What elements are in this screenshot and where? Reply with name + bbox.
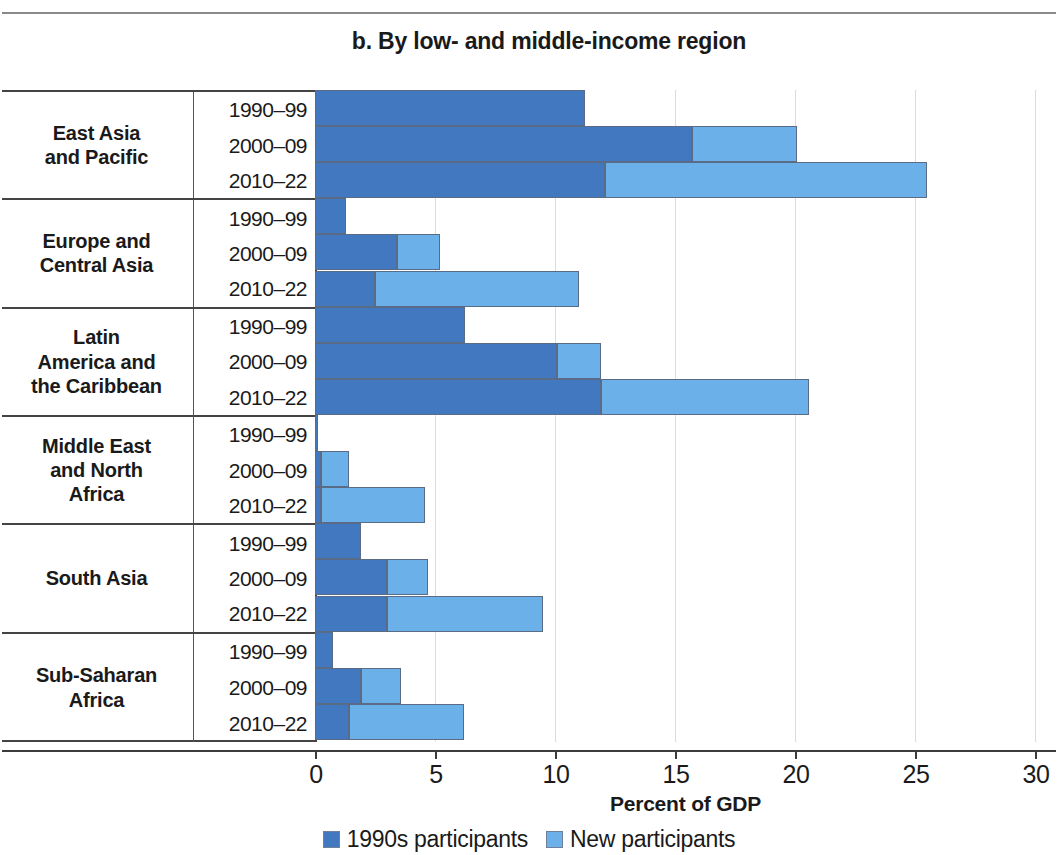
gridline [1035, 90, 1036, 742]
period-label: 2010–22 [194, 278, 315, 299]
region-group: Europe andCentral Asia1990–992000–092010… [2, 200, 315, 308]
bar-segment-1990s-participants[interactable] [315, 271, 375, 307]
x-axis-tick-label: 5 [406, 760, 466, 789]
bar-segment-1990s-participants[interactable] [315, 379, 601, 415]
period-label: 1990–99 [194, 424, 315, 445]
chart-plot-region: East Asiaand Pacific1990–992000–092010–2… [0, 90, 1058, 750]
bar-row[interactable] [315, 234, 440, 270]
period-label: 1990–99 [194, 533, 315, 554]
period-label: 2000–09 [194, 243, 315, 264]
x-axis-tick-label: 15 [646, 760, 706, 789]
bar-segment-1990s-participants[interactable] [315, 668, 361, 704]
x-axis-line [2, 750, 1056, 752]
chart-legend: 1990s participantsNew participants [0, 826, 1058, 853]
x-axis-title: Percent of GDP [315, 792, 1056, 816]
region-label-line: Africa [2, 482, 191, 506]
period-label-column: 1990–992000–092010–22 [193, 92, 315, 198]
bar-segment-1990s-participants[interactable] [315, 307, 465, 343]
bar-row[interactable] [315, 126, 797, 162]
region-label-table: East Asiaand Pacific1990–992000–092010–2… [2, 90, 315, 742]
bar-segment-1990s-participants[interactable] [315, 234, 397, 270]
region-label-line: Latin [2, 325, 191, 349]
bar-segment-new-participants[interactable] [375, 271, 579, 307]
period-label: 2010–22 [194, 603, 315, 624]
region-label-line: the Caribbean [2, 374, 191, 398]
region-label: Europe andCentral Asia [2, 229, 195, 278]
region-label-line: South Asia [2, 566, 191, 590]
bar-segment-new-participants[interactable] [692, 126, 798, 162]
region-label-line: Europe and [2, 229, 191, 253]
bar-row[interactable] [315, 162, 927, 198]
bar-row[interactable] [315, 487, 425, 523]
region-label-line: East Asia [2, 121, 191, 145]
bar-row[interactable] [315, 451, 349, 487]
region-group: LatinAmerica andthe Caribbean1990–992000… [2, 309, 315, 417]
bar-segment-1990s-participants[interactable] [315, 415, 318, 451]
period-label: 2000–09 [194, 568, 315, 589]
bar-segment-1990s-participants[interactable] [315, 343, 557, 379]
legend-swatch-icon [323, 831, 340, 848]
bar-segment-new-participants[interactable] [361, 668, 402, 704]
bar-row[interactable] [315, 90, 585, 126]
period-label: 2000–09 [194, 677, 315, 698]
period-label-column: 1990–992000–092010–22 [193, 200, 315, 306]
bar-row[interactable] [315, 704, 464, 740]
bar-row[interactable] [315, 379, 809, 415]
legend-item[interactable]: New participants [546, 826, 735, 853]
legend-item[interactable]: 1990s participants [323, 826, 528, 853]
bar-segment-1990s-participants[interactable] [315, 523, 361, 559]
bar-segment-1990s-participants[interactable] [315, 90, 585, 126]
x-axis-tick [435, 750, 437, 759]
x-axis-tick-label: 0 [286, 760, 346, 789]
region-label: Sub-SaharanAfrica [2, 663, 195, 712]
bar-segment-1990s-participants[interactable] [315, 162, 605, 198]
region-group: South Asia1990–992000–092010–22 [2, 525, 315, 633]
bar-segment-1990s-participants[interactable] [315, 559, 387, 595]
bar-row[interactable] [315, 596, 543, 632]
region-label: East Asiaand Pacific [2, 121, 195, 170]
region-group: Sub-SaharanAfrica1990–992000–092010–22 [2, 634, 315, 742]
bar-segment-new-participants[interactable] [387, 596, 543, 632]
legend-label: 1990s participants [347, 826, 528, 853]
bar-segment-1990s-participants[interactable] [315, 632, 333, 668]
period-label: 1990–99 [194, 208, 315, 229]
period-label-column: 1990–992000–092010–22 [193, 525, 315, 631]
bar-segment-new-participants[interactable] [321, 487, 425, 523]
bar-segment-new-participants[interactable] [321, 451, 349, 487]
bar-row[interactable] [315, 307, 465, 343]
x-axis-tick [795, 750, 797, 759]
bar-row[interactable] [315, 523, 361, 559]
bar-segment-new-participants[interactable] [397, 234, 440, 270]
region-label-line: Central Asia [2, 253, 191, 277]
bar-row[interactable] [315, 415, 318, 451]
bar-segment-new-participants[interactable] [557, 343, 600, 379]
period-label: 1990–99 [194, 641, 315, 662]
x-axis-tick [1035, 750, 1037, 759]
bar-row[interactable] [315, 668, 401, 704]
bar-segment-new-participants[interactable] [387, 559, 428, 595]
bar-row[interactable] [315, 632, 333, 668]
period-label-column: 1990–992000–092010–22 [193, 309, 315, 415]
bar-segment-new-participants[interactable] [605, 162, 927, 198]
bar-row[interactable] [315, 343, 601, 379]
x-axis-tick-label: 30 [1006, 760, 1058, 789]
region-label-line: Sub-Saharan [2, 663, 191, 687]
period-label: 1990–99 [194, 99, 315, 120]
period-label: 2000–09 [194, 460, 315, 481]
bar-segment-1990s-participants[interactable] [315, 198, 346, 234]
bar-segment-1990s-participants[interactable] [315, 704, 349, 740]
bars-panel [315, 90, 1056, 742]
bar-row[interactable] [315, 271, 579, 307]
x-axis-tick [315, 750, 317, 759]
bar-row[interactable] [315, 198, 346, 234]
bar-row[interactable] [315, 559, 428, 595]
bar-segment-new-participants[interactable] [349, 704, 464, 740]
period-label-column: 1990–992000–092010–22 [193, 634, 315, 742]
bar-segment-new-participants[interactable] [601, 379, 810, 415]
bars-canvas [315, 90, 1056, 742]
period-label: 2010–22 [194, 387, 315, 408]
top-divider-rule [2, 12, 1056, 14]
region-group: Middle Eastand NorthAfrica1990–992000–09… [2, 417, 315, 525]
bar-segment-1990s-participants[interactable] [315, 596, 387, 632]
bar-segment-1990s-participants[interactable] [315, 126, 692, 162]
